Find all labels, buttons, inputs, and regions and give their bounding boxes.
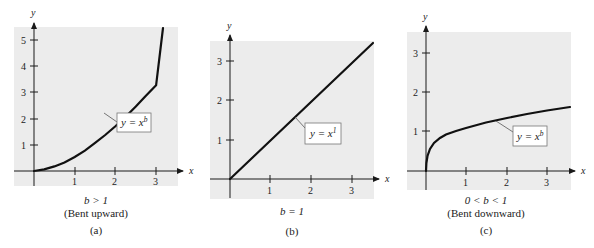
- caption-description: (Bent downward): [447, 207, 525, 220]
- y-axis-label: y: [226, 20, 232, 31]
- panel-b: x y 1 2 3 1 2 3 y = x1 b = 1 (b): [210, 20, 390, 238]
- y-tick-label: 3: [413, 48, 418, 59]
- y-tick-label: 2: [413, 87, 418, 98]
- svg-text:y = x1: y = x1: [309, 126, 336, 139]
- x-tick-label: 3: [544, 177, 549, 188]
- x-tick-label: 1: [72, 176, 77, 187]
- y-tick-label: 2: [217, 95, 222, 106]
- y-tick-label: 5: [21, 35, 26, 46]
- x-tick-label: 2: [308, 185, 313, 196]
- panel-c: x y 1 2 3 1 2 3 y = xb 0 < b < 1 (Bent d…: [407, 11, 586, 237]
- y-axis-label: y: [422, 11, 428, 22]
- x-tick-label: 1: [463, 177, 468, 188]
- function-label-box: y = x1: [305, 123, 341, 144]
- caption-description: (Bent upward): [64, 207, 128, 220]
- x-axis-label: x: [384, 173, 390, 184]
- eq-base: y = x: [309, 127, 333, 139]
- x-tick-label: 3: [349, 185, 354, 196]
- eq-base: y = x: [120, 116, 144, 128]
- function-label-box: y = xb: [513, 126, 547, 146]
- eq-exponent: b: [540, 129, 544, 138]
- svg-text:y = xb: y = xb: [120, 115, 148, 128]
- eq-exponent: 1: [333, 126, 337, 135]
- x-tick-label: 3: [153, 176, 158, 187]
- eq-base: y = x: [516, 130, 540, 142]
- figure: x y 1 2 3 1 2 3 4 5 y = xb: [0, 0, 594, 248]
- panel-letter: (c): [480, 224, 493, 237]
- x-tick-label: 1: [267, 185, 272, 196]
- y-tick-label: 1: [21, 140, 26, 151]
- panel-a: x y 1 2 3 1 2 3 4 5 y = xb: [14, 7, 194, 237]
- y-tick-label: 3: [217, 56, 222, 67]
- plot-background: [14, 27, 178, 186]
- x-tick-label: 2: [504, 177, 509, 188]
- caption-condition: b = 1: [280, 205, 304, 217]
- eq-exponent: b: [144, 115, 148, 124]
- y-axis-label: y: [30, 7, 36, 18]
- x-tick-label: 2: [112, 176, 117, 187]
- y-tick-label: 4: [21, 61, 26, 72]
- y-tick-label: 1: [413, 126, 418, 137]
- x-axis-label: x: [580, 165, 586, 176]
- caption-condition: 0 < b < 1: [465, 194, 507, 206]
- y-tick-label: 2: [21, 114, 26, 125]
- panel-letter: (b): [286, 225, 299, 238]
- y-tick-label: 3: [21, 87, 26, 98]
- function-label-box: y = xb: [117, 113, 151, 132]
- panel-letter: (a): [90, 224, 103, 237]
- x-axis-label: x: [188, 165, 194, 176]
- y-tick-label: 1: [217, 135, 222, 146]
- caption-condition: b > 1: [84, 194, 108, 206]
- svg-text:y = xb: y = xb: [516, 129, 544, 142]
